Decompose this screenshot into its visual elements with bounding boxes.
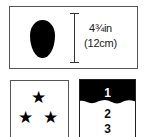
number-item-2: 2: [80, 107, 135, 121]
size-panel: 4¾in (12cm): [9, 6, 138, 69]
dimension-line-icon: [74, 13, 75, 63]
stars-panel: ★ ★ ★: [10, 80, 69, 137]
dimension-cap-bottom: [70, 62, 79, 63]
star-icon: ★: [43, 109, 58, 126]
size-imperial: 4¾in: [84, 21, 117, 36]
number-item-3: 3: [80, 122, 135, 136]
numbers-panel: 1 2 3: [79, 79, 136, 137]
size-label: 4¾in (12cm): [84, 21, 117, 51]
star-icon: ★: [18, 109, 33, 126]
star-icon: ★: [31, 89, 46, 106]
oval-shape-icon: [30, 20, 55, 58]
size-metric: (12cm): [84, 36, 117, 51]
number-item-1: 1: [80, 86, 135, 100]
